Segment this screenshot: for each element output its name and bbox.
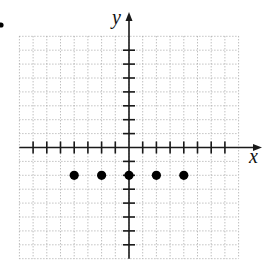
data-point (70, 171, 79, 180)
data-points (70, 171, 189, 180)
exercise-bullet-icon (0, 22, 4, 27)
axes (19, 12, 262, 259)
data-point (179, 171, 188, 180)
y-axis-label: y (110, 6, 121, 29)
data-point (152, 171, 161, 180)
coordinate-plane: y x (0, 0, 274, 280)
data-point (97, 171, 106, 180)
x-axis-label: x (248, 145, 258, 167)
data-point (124, 171, 133, 180)
y-axis-arrow-icon (126, 12, 133, 21)
